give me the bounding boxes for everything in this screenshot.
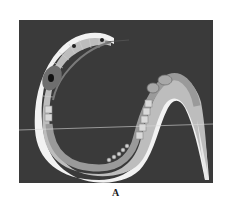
illustration-panel xyxy=(19,20,213,183)
head-dot-2 xyxy=(72,44,76,48)
panel-label: A xyxy=(0,187,231,198)
oocytes xyxy=(45,100,152,139)
head-dot xyxy=(100,38,104,42)
worm-illustration xyxy=(19,20,213,183)
bulb-nucleus xyxy=(48,74,54,82)
